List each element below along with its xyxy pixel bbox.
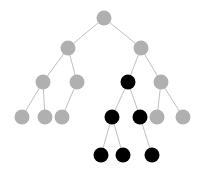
tree-edge: [47, 54, 64, 77]
tree-node-gray: [154, 75, 169, 90]
tree-node-gray: [61, 41, 76, 56]
tree-node-black: [145, 148, 160, 163]
tree-node-gray: [150, 110, 165, 125]
tree-node-gray: [134, 41, 149, 56]
tree-edge: [114, 124, 121, 149]
tree-node-gray: [15, 110, 30, 125]
tree-diagram-canvas: [0, 0, 205, 176]
tree-edge: [43, 89, 44, 110]
tree-edge: [73, 22, 98, 43]
tree-node-gray: [36, 75, 51, 90]
tree-node-gray: [97, 11, 112, 26]
tree-edge: [145, 54, 158, 76]
tree-edge: [130, 89, 137, 111]
tree-node-gray: [55, 110, 70, 125]
tree-edge: [65, 88, 74, 110]
tree-node-black: [121, 75, 136, 90]
tree-node-black: [133, 110, 148, 125]
tree-edge: [109, 22, 135, 43]
tree-node-black: [105, 110, 120, 125]
tree-node-black: [116, 148, 131, 163]
tree-edge: [103, 124, 110, 149]
tree-edge: [115, 88, 125, 110]
tree-node-gray: [176, 110, 191, 125]
tree-edge: [26, 88, 40, 111]
tree-edge: [70, 55, 75, 75]
tree-node-layer: [15, 11, 191, 163]
tree-node-black: [94, 148, 109, 163]
tree-edge: [131, 55, 139, 76]
tree-diagram-figure: [0, 0, 205, 176]
tree-edge: [165, 88, 180, 111]
tree-edge: [142, 124, 150, 149]
tree-node-gray: [38, 110, 53, 125]
tree-node-gray: [70, 75, 85, 90]
tree-edge: [158, 89, 160, 110]
